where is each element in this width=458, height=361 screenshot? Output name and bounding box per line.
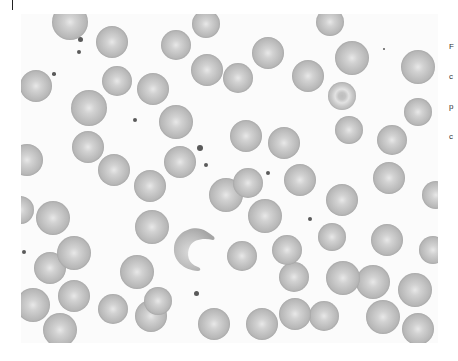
red-blood-cell bbox=[279, 298, 311, 330]
platelet bbox=[22, 250, 26, 254]
red-blood-cell bbox=[272, 235, 302, 265]
platelet bbox=[266, 171, 270, 175]
red-blood-cell bbox=[401, 50, 435, 84]
red-blood-cell bbox=[21, 196, 34, 224]
red-blood-cell bbox=[356, 265, 390, 299]
red-blood-cell bbox=[230, 120, 262, 152]
red-blood-cell bbox=[268, 127, 300, 159]
red-blood-cell bbox=[246, 308, 278, 340]
red-blood-cell bbox=[419, 236, 438, 264]
platelet bbox=[194, 291, 199, 296]
caption-line: c bbox=[449, 132, 458, 142]
red-blood-cell bbox=[36, 201, 70, 235]
red-blood-cell bbox=[21, 288, 50, 322]
red-blood-cell bbox=[52, 14, 88, 40]
platelet bbox=[197, 145, 203, 151]
red-blood-cell bbox=[326, 261, 360, 295]
red-blood-cell bbox=[21, 144, 43, 176]
red-blood-cell bbox=[318, 223, 346, 251]
red-blood-cell bbox=[404, 98, 432, 126]
red-blood-cell bbox=[72, 131, 104, 163]
red-blood-cell bbox=[98, 294, 128, 324]
sickle-cell bbox=[171, 226, 215, 272]
red-blood-cell bbox=[102, 66, 132, 96]
figure-caption-truncated: F c p c bbox=[449, 22, 458, 152]
red-blood-cell bbox=[292, 60, 324, 92]
red-blood-cell bbox=[335, 41, 369, 75]
red-blood-cell bbox=[134, 170, 166, 202]
red-blood-cell bbox=[366, 300, 400, 334]
red-blood-cell bbox=[316, 14, 344, 36]
platelet bbox=[52, 72, 56, 76]
platelet bbox=[308, 217, 312, 221]
platelet bbox=[204, 163, 208, 167]
red-blood-cell bbox=[96, 26, 128, 58]
red-blood-cell bbox=[120, 255, 154, 289]
red-blood-cell bbox=[21, 70, 52, 102]
platelet bbox=[383, 48, 385, 50]
red-blood-cell bbox=[198, 308, 230, 340]
target-cell bbox=[328, 82, 356, 110]
caption-line: p bbox=[449, 102, 458, 112]
red-blood-cell bbox=[164, 146, 196, 178]
red-blood-cell bbox=[57, 236, 91, 270]
red-blood-cell bbox=[159, 105, 193, 139]
red-blood-cell bbox=[377, 125, 407, 155]
red-blood-cell bbox=[402, 313, 434, 343]
red-blood-cell bbox=[284, 164, 316, 196]
caption-line: F bbox=[449, 42, 458, 52]
red-blood-cell bbox=[252, 37, 284, 69]
red-blood-cell bbox=[326, 184, 358, 216]
caption-line: c bbox=[449, 72, 458, 82]
red-blood-cell bbox=[135, 210, 169, 244]
red-blood-cell bbox=[422, 181, 438, 209]
red-blood-cell bbox=[279, 262, 309, 292]
platelet bbox=[78, 37, 83, 42]
red-blood-cell bbox=[227, 241, 257, 271]
platelet bbox=[133, 118, 137, 122]
red-blood-cell bbox=[223, 63, 253, 93]
margin-rule bbox=[12, 0, 13, 10]
red-blood-cell bbox=[233, 168, 263, 198]
red-blood-cell bbox=[192, 14, 220, 38]
red-blood-cell bbox=[58, 280, 90, 312]
red-blood-cell bbox=[137, 73, 169, 105]
red-blood-cell bbox=[371, 224, 403, 256]
red-blood-cell bbox=[248, 199, 282, 233]
red-blood-cell bbox=[71, 90, 107, 126]
platelet bbox=[77, 50, 82, 55]
red-blood-cell bbox=[43, 313, 77, 343]
red-blood-cell bbox=[98, 154, 130, 186]
red-blood-cell bbox=[398, 273, 432, 307]
red-blood-cell bbox=[161, 30, 191, 60]
red-blood-cell bbox=[191, 54, 223, 86]
blood-smear-figure bbox=[21, 14, 438, 343]
red-blood-cell bbox=[144, 287, 172, 315]
red-blood-cell bbox=[373, 162, 405, 194]
red-blood-cell bbox=[309, 301, 339, 331]
red-blood-cell bbox=[335, 116, 363, 144]
